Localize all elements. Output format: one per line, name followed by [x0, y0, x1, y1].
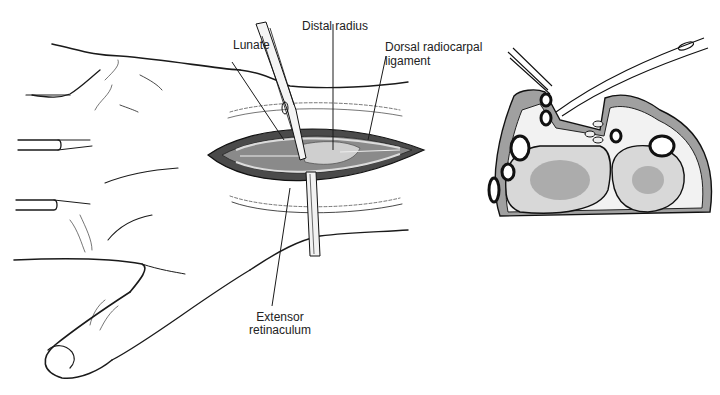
label-extensor-retinaculum-line2: retinaculum	[240, 323, 320, 337]
figure: Lunate Distal radius Dorsal radiocarpal …	[0, 0, 720, 395]
label-dorsal-radiocarpal-ligament-line1: Dorsal radiocarpal	[385, 40, 482, 54]
cross-section-illustration	[0, 0, 720, 395]
label-lunate: Lunate	[233, 38, 270, 52]
label-dorsal-radiocarpal-ligament-line2: ligament	[385, 54, 430, 68]
label-extensor-retinaculum-line1: Extensor	[240, 310, 320, 324]
label-distal-radius: Distal radius	[302, 19, 368, 33]
